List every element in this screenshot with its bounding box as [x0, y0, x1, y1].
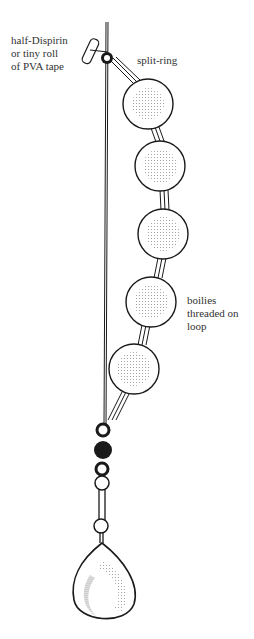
boilie	[123, 79, 173, 129]
boilie	[126, 277, 176, 327]
boilie	[138, 209, 188, 259]
swivel-bead-assembly	[94, 424, 112, 543]
boilie	[135, 141, 185, 191]
boilies	[109, 79, 188, 394]
boilie	[109, 344, 159, 394]
label-boilies: boilies threaded on loop	[187, 294, 239, 333]
split-ring	[101, 52, 113, 64]
label-dispirin: half-Dispirin or tiny roll of PVA tape	[11, 34, 68, 73]
label-split-ring: split-ring	[137, 54, 177, 67]
lead-weight	[73, 543, 135, 619]
main-line	[104, 22, 108, 425]
